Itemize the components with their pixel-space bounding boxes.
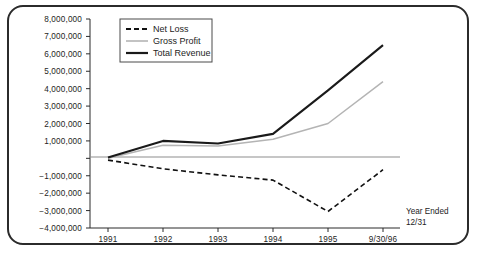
legend-label-gross-profit: Gross Profit bbox=[153, 36, 201, 46]
x-tick-label: 1992 bbox=[154, 235, 173, 244]
y-tick-label: 7,000,000 bbox=[44, 32, 82, 41]
y-tick-label: −1,000,000 bbox=[39, 172, 82, 181]
y-tick-label: 5,000,000 bbox=[44, 67, 82, 76]
y-tick-label: 4,000,000 bbox=[44, 85, 82, 94]
x-tick-label: 9/30/96 bbox=[369, 235, 398, 244]
y-tick-label: 6,000,000 bbox=[44, 50, 82, 59]
y-axis-ticks bbox=[86, 19, 90, 228]
y-axis-labels: 8,000,0007,000,0006,000,0005,000,0004,00… bbox=[39, 15, 82, 233]
x-axis-caption-line1: Year Ended bbox=[406, 207, 449, 216]
data-series-group bbox=[108, 45, 383, 211]
y-tick-label: −4,000,000 bbox=[39, 224, 82, 233]
y-tick-label: 2,000,000 bbox=[44, 120, 82, 129]
x-axis-ticks bbox=[108, 228, 383, 232]
series-line-gross-profit bbox=[108, 82, 383, 159]
x-tick-label: 1994 bbox=[264, 235, 283, 244]
y-tick-label: −3,000,000 bbox=[39, 207, 82, 216]
chart-screenshot: 8,000,0007,000,0006,000,0005,000,0004,00… bbox=[0, 0, 479, 253]
y-tick-label: 8,000,000 bbox=[44, 15, 82, 24]
x-axis-labels: 199119921993199419959/30/96 bbox=[99, 235, 398, 244]
x-tick-label: 1991 bbox=[99, 235, 118, 244]
line-chart: 8,000,0007,000,0006,000,0005,000,0004,00… bbox=[0, 0, 479, 253]
y-tick-label: 3,000,000 bbox=[44, 102, 82, 111]
series-line-net-loss bbox=[108, 160, 383, 211]
x-axis-caption-line2: 12/31 bbox=[406, 218, 427, 227]
chart-legend: Net LossGross ProfitTotal Revenue bbox=[120, 19, 212, 62]
y-tick-label: 1,000,000 bbox=[44, 137, 82, 146]
y-tick-label: −2,000,000 bbox=[39, 189, 82, 198]
legend-label-total-revenue: Total Revenue bbox=[153, 48, 211, 58]
x-tick-label: 1995 bbox=[319, 235, 338, 244]
x-tick-label: 1993 bbox=[209, 235, 228, 244]
legend-label-net-loss: Net Loss bbox=[153, 24, 189, 34]
